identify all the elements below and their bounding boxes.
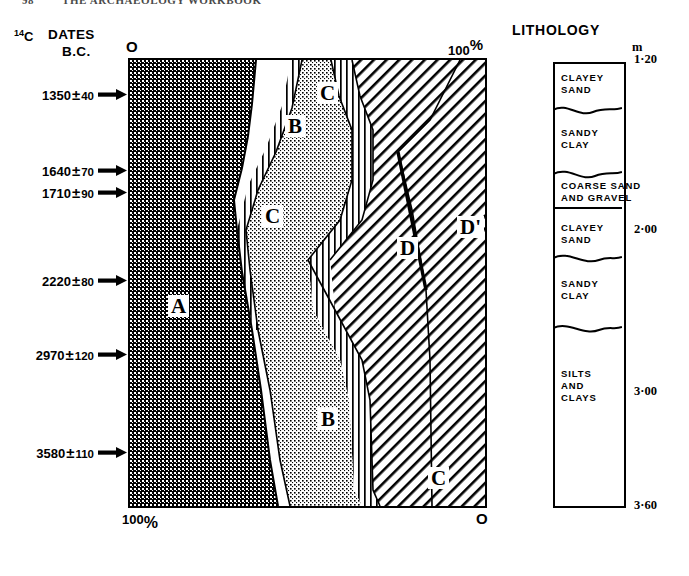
lithology-depth-mark: 3·60 <box>634 498 657 513</box>
lithology-depth-mark: 1·20 <box>634 52 657 67</box>
lithology-depth-mark: 2·00 <box>634 222 657 237</box>
lithology-depth-layer: 1·202·003·003·60 <box>0 0 689 576</box>
lithology-depth-mark: 3·00 <box>634 384 657 399</box>
